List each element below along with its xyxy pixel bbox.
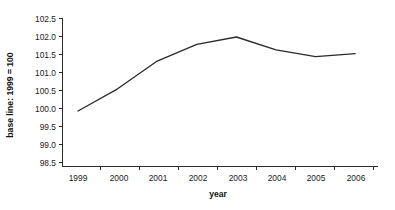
x-tick-label-2001: 2001 (149, 173, 168, 183)
x-tick-label-2004: 2004 (268, 173, 287, 183)
x-tick-label-1999: 1999 (69, 173, 88, 183)
x-tick-label-2003: 2003 (229, 173, 248, 183)
y-tick-label-101-0: 101.0 (35, 68, 56, 78)
y-axis-title: base line: 1999 = 100 (5, 52, 15, 137)
y-tick-label-99-5: 99.5 (40, 122, 57, 132)
series-line-index (78, 37, 355, 111)
line-chart: base line: 1999 = 100 102.5 102.0 101.5 … (0, 0, 395, 210)
x-tick-label-2002: 2002 (189, 173, 208, 183)
x-tick-label-2005: 2005 (307, 173, 326, 183)
x-tick-label-2006: 2006 (347, 173, 366, 183)
y-tick-label-100-5: 100.5 (35, 86, 56, 96)
x-axis-title: year (209, 189, 227, 199)
y-tick-label-98-5: 98.5 (40, 158, 57, 168)
y-tick-label-101-5: 101.5 (35, 50, 56, 60)
y-tick-label-100-0: 100.0 (35, 104, 56, 114)
y-tick-label-102-0: 102.0 (35, 32, 56, 42)
x-tick-label-2000: 2000 (110, 173, 129, 183)
chart-canvas: base line: 1999 = 100 102.5 102.0 101.5 … (0, 0, 395, 210)
y-tick-label-99-0: 99.0 (40, 140, 57, 150)
y-tick-label-102-5: 102.5 (35, 14, 56, 24)
